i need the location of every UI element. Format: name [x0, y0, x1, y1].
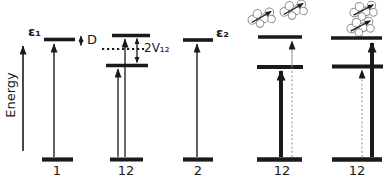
epsilon2-label: ε₂ — [216, 26, 229, 39]
dimer12-label: 12 — [118, 164, 135, 177]
jdimer-label: 12 — [274, 164, 291, 177]
j-dimer-diagram — [246, 0, 308, 159]
shift-D-label: D — [87, 33, 97, 46]
monomer-1-diagram — [42, 36, 81, 160]
molecule-sketch — [246, 7, 276, 30]
diagram-graphics — [0, 0, 392, 184]
monomer-2-diagram — [183, 40, 213, 160]
hdimer-label: 12 — [349, 164, 366, 177]
epsilon1-label: ε₁ — [28, 25, 41, 38]
dimer-12-diagram — [102, 36, 150, 160]
coupling-2V12-label: 2V₁₂ — [144, 42, 169, 54]
monomer1-label: 1 — [53, 164, 61, 177]
energy-axis-label: Energy — [3, 71, 19, 119]
monomer2-label: 2 — [194, 164, 202, 177]
h-dimer-diagram — [331, 0, 383, 159]
molecule-sketch — [278, 0, 308, 21]
molecule-sketch — [349, 0, 378, 22]
energy-level-figure: Energy ε₁ D 2V₁₂ ε₂ 1 12 2 12 12 — [0, 0, 392, 184]
